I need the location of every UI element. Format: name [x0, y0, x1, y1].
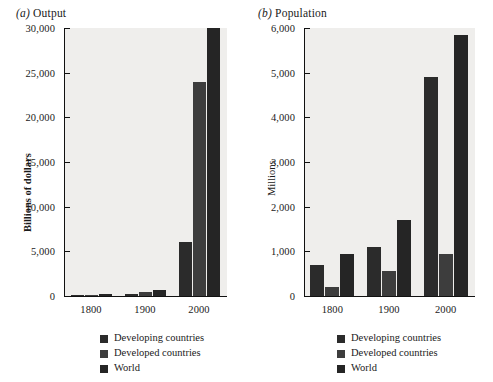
legend-label-world: World — [114, 363, 140, 374]
y-tick-label: 30,000 — [0, 23, 55, 34]
legend-swatch-world-icon — [100, 365, 108, 373]
x-tick-label: 1900 — [134, 304, 155, 315]
legend-swatch-developed-icon — [337, 350, 345, 358]
panel-title-output: (a) Output — [16, 7, 66, 19]
legend-item: Developed countries — [337, 346, 441, 361]
bar — [193, 82, 206, 296]
bar — [85, 295, 98, 296]
y-tick-label: 0 — [246, 291, 295, 302]
y-tick-label: 20,000 — [0, 112, 55, 123]
legend-label-developing: Developing countries — [351, 333, 441, 344]
y-tick-mark — [64, 117, 70, 118]
legend-population: Developing countries Developed countries… — [337, 331, 441, 376]
y-tick-mark — [304, 251, 310, 252]
bar — [325, 287, 339, 296]
panel-population: (b) Population Millions 01,0002,0003,000… — [246, 0, 492, 382]
x-tick-label: 1800 — [322, 304, 343, 315]
y-tick-mark — [64, 73, 70, 74]
y-tick-label: 15,000 — [0, 157, 55, 168]
y-tick-mark — [64, 162, 70, 163]
legend-label-world: World — [351, 363, 377, 374]
figure: (a) Output Billions of dollars 05,00010,… — [0, 0, 493, 382]
panel-title-text-b: Population — [275, 7, 327, 19]
y-tick-mark — [304, 117, 310, 118]
bar — [207, 28, 220, 296]
legend-item: Developing countries — [100, 331, 204, 346]
y-tick-label: 25,000 — [0, 67, 55, 78]
bar — [71, 295, 84, 296]
y-tick-label: 2,000 — [246, 201, 295, 212]
bar — [424, 77, 438, 296]
bar — [99, 294, 112, 296]
x-tick-label: 2000 — [188, 304, 209, 315]
legend-swatch-developed-icon — [100, 350, 108, 358]
legend-label-developed: Developed countries — [351, 348, 438, 359]
bar — [139, 292, 152, 296]
bar — [367, 247, 381, 296]
x-tick-label: 2000 — [435, 304, 456, 315]
y-tick-label: 4,000 — [246, 112, 295, 123]
legend-item: Developing countries — [337, 331, 441, 346]
legend-swatch-developing-icon — [337, 335, 345, 343]
y-tick-mark — [64, 251, 70, 252]
legend-swatch-world-icon — [337, 365, 345, 373]
y-tick-mark — [304, 207, 310, 208]
y-tick-mark — [304, 28, 310, 29]
legend-label-developed: Developed countries — [114, 348, 201, 359]
bar — [382, 271, 396, 296]
panel-title-population: (b) Population — [258, 7, 327, 19]
y-tick-mark — [64, 28, 70, 29]
bar — [454, 35, 468, 296]
bar — [125, 294, 138, 296]
legend-label-developing: Developing countries — [114, 333, 204, 344]
legend-item: World — [100, 361, 204, 376]
bar — [340, 254, 354, 296]
y-tick-mark — [64, 207, 70, 208]
y-tick-label: 5,000 — [246, 67, 295, 78]
legend-output: Developing countries Developed countries… — [100, 331, 204, 376]
legend-item: World — [337, 361, 441, 376]
bar — [153, 290, 166, 296]
x-tick-label: 1800 — [80, 304, 101, 315]
x-tick-label: 1900 — [378, 304, 399, 315]
panel-label-b: (b) — [258, 7, 272, 19]
panel-title-text-a: Output — [33, 7, 66, 19]
y-tick-mark — [304, 73, 310, 74]
bar — [439, 254, 453, 296]
y-tick-label: 0 — [0, 291, 55, 302]
panel-label-a: (a) — [16, 7, 30, 19]
bar — [310, 265, 324, 296]
y-tick-label: 3,000 — [246, 157, 295, 168]
legend-swatch-developing-icon — [100, 335, 108, 343]
y-tick-label: 10,000 — [0, 201, 55, 212]
y-tick-mark — [304, 162, 310, 163]
legend-item: Developed countries — [100, 346, 204, 361]
y-tick-label: 1,000 — [246, 246, 295, 257]
panel-output: (a) Output Billions of dollars 05,00010,… — [0, 0, 246, 382]
bar — [397, 220, 411, 296]
y-tick-label: 5,000 — [0, 246, 55, 257]
y-tick-label: 6,000 — [246, 23, 295, 34]
bar — [179, 242, 192, 296]
